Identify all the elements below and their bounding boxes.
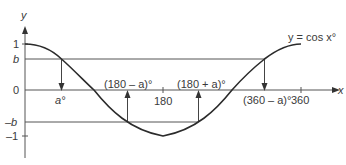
x-axis-label: x <box>337 84 344 96</box>
x-tick-label-180-plus-a: (180 + a)° <box>177 78 226 90</box>
origin-label: 0 <box>13 84 19 96</box>
y-axis-label: y <box>20 9 28 21</box>
y-tick-label-neg-1: –1 <box>6 130 18 142</box>
x-tick-label-360-minus-a: (360 – a)° <box>243 94 291 106</box>
x-tick-label-180-minus-a: (180 – a)° <box>104 78 152 90</box>
x-tick-label-a: a° <box>55 94 66 106</box>
x-tick-label-180: 180 <box>154 95 172 107</box>
y-tick-label-neg-b: –b <box>4 116 17 128</box>
x-tick-label-360: 360 <box>291 94 309 106</box>
y-tick-label-b: b <box>13 53 19 65</box>
y-tick-label-1: 1 <box>13 38 19 50</box>
curve-label: y = cos x° <box>288 31 336 43</box>
cosine-diagram: y x 0 1 b –b –1 a° (180 – a)° 180 (180 +… <box>0 0 346 165</box>
